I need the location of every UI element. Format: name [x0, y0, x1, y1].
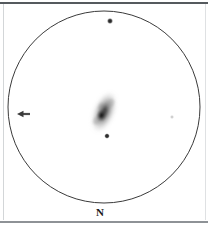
finder-chart: N: [0, 0, 208, 226]
compass-north-text: N: [96, 206, 104, 218]
marker-arrow-icon: [17, 111, 30, 117]
star-east-faint: [170, 115, 175, 120]
star-south: [104, 133, 110, 139]
compass-north-label: N: [0, 206, 208, 218]
galaxy: [81, 82, 128, 142]
marker-arrow-head: [17, 111, 24, 117]
star-north: [107, 18, 114, 25]
sky-field: [0, 0, 208, 226]
